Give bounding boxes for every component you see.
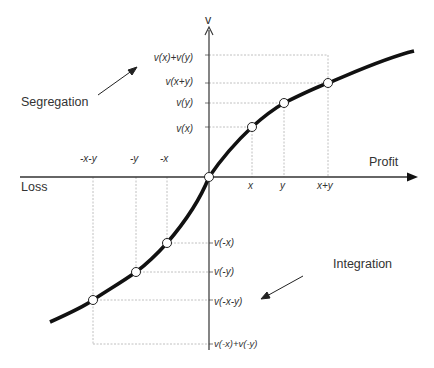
point-neg-x-y [89, 296, 98, 305]
annotation-arrows [98, 67, 303, 299]
x-tick-x-plus-y: x+y [317, 180, 333, 192]
integration-arrow-icon [265, 276, 303, 297]
gain-guide-lines [209, 55, 328, 177]
profit-label: Profit [369, 155, 398, 169]
v-tick-v-x-plus-y: v(x+y) [166, 76, 194, 88]
x-axis-arrow-icon [407, 173, 418, 182]
v-tick-vy: v(y) [176, 97, 193, 109]
origin-point [205, 173, 214, 182]
point-x-plus-y [324, 79, 333, 88]
segregation-arrow-icon [98, 70, 133, 95]
point-neg-x [163, 239, 172, 248]
integration-label: Integration [333, 257, 392, 271]
v-tick-v-neg-y: v(-y) [214, 266, 234, 278]
x-tick-neg-y: -y [130, 153, 138, 165]
v-tick-vneg-x-plus-vneg-y: v(-x)+v(-y) [214, 338, 258, 350]
v-tick-vx: v(x) [176, 123, 193, 135]
v-tick-v-neg-x: v(-x) [214, 237, 234, 249]
segregation-label: Segregation [21, 95, 88, 109]
x-tick-neg-x-y: -x-y [80, 153, 97, 165]
v-tick-vx-plus-vy: v(x)+v(y) [154, 52, 193, 64]
value-function-diagram [0, 0, 434, 368]
curve-points [89, 79, 333, 305]
v-tick-v-neg-x-y: v(-x-y) [214, 296, 242, 308]
point-neg-y [132, 268, 141, 277]
point-x [248, 123, 257, 132]
point-y [280, 99, 289, 108]
x-tick-y: y [280, 180, 285, 192]
loss-label: Loss [21, 180, 47, 194]
x-tick-x: x [248, 180, 253, 192]
value-function-curve [50, 51, 414, 322]
x-tick-neg-x: -x [160, 153, 168, 165]
v-axis-label: v [205, 13, 211, 27]
